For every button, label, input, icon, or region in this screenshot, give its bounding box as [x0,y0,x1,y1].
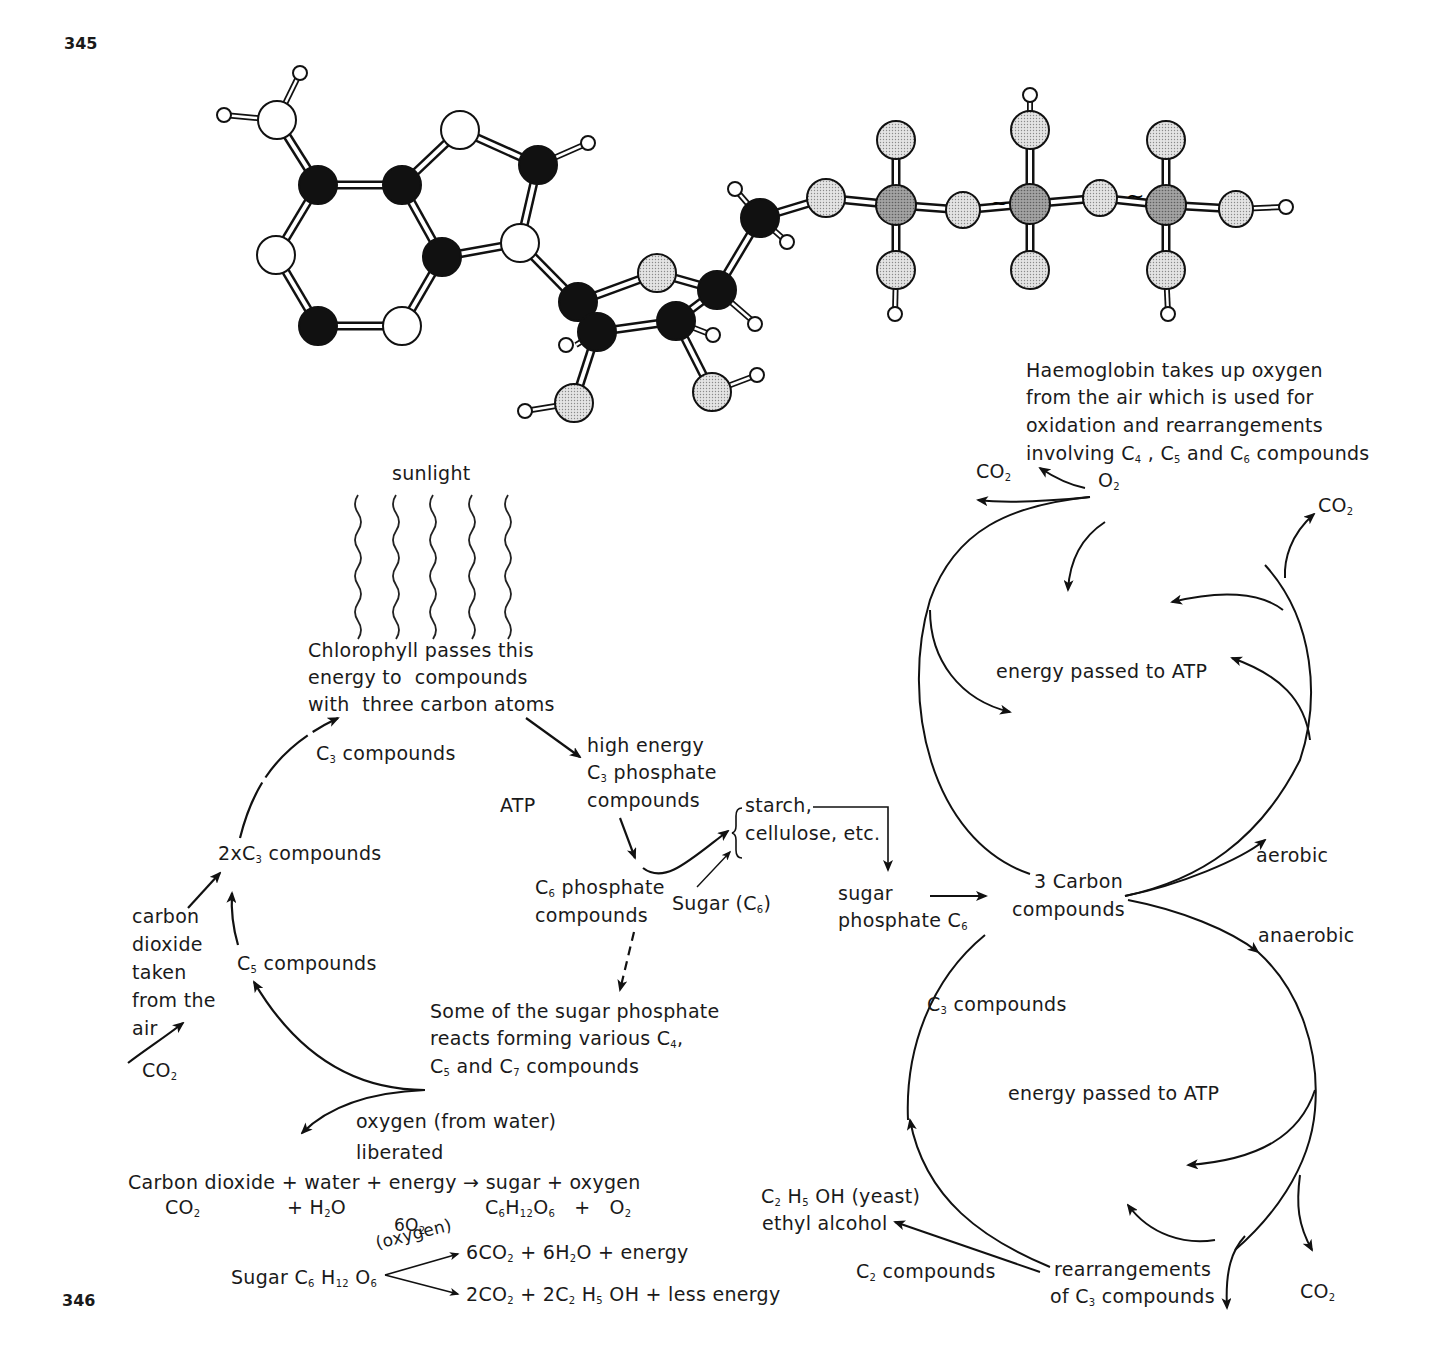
diagram-artwork: ~ ~ [0,0,1438,1363]
o2-input-label: O2 [1098,467,1120,500]
co2-output-bottom: CO2 [1300,1278,1336,1311]
formula-co2: CO2 [165,1194,201,1227]
co2-output-top-left: CO2 [976,458,1012,491]
energy-atp-aerobic-label: energy passed to ATP [996,658,1207,685]
respiration-sugar-formula: Sugar C6 H12 O6 [231,1264,377,1297]
anaerobic-label: anaerobic [1258,922,1355,949]
high-energy-bond-2: ~ [1126,183,1144,208]
c3-compounds-respiration-label: C3 compounds [927,991,1067,1024]
sugar-c6-label: Sugar (C6) [672,890,771,923]
c5-compounds-label: C5 compounds [237,950,377,983]
co2-input-label: CO2 [142,1057,178,1090]
aerobic-label: aerobic [1256,842,1328,869]
respiration-equation-arrows [385,1254,458,1294]
formula-products: C6H12O6 + O2 [485,1194,631,1227]
sunlight-waves [355,495,511,639]
c3-compounds-label: C3 compounds [316,740,456,773]
page-number-346: 346 [62,1291,95,1310]
energy-atp-anaerobic-label: energy passed to ATP [1008,1080,1219,1107]
high-energy-bond-1: ~ [990,190,1008,215]
chlorophyll-line-2: energy to compounds [308,664,528,691]
co2-output-top-right: CO2 [1318,492,1354,525]
chlorophyll-line-1: Chlorophyll passes this [308,637,534,664]
chlorophyll-line-3: with three carbon atoms [308,691,555,718]
formula-h2o: + H2O [287,1194,346,1227]
photosynthesis-word-equation: Carbon dioxide + water + energy → sugar … [128,1169,641,1196]
atp-label: ATP [500,792,536,819]
c2-compounds-label: C2 compounds [856,1258,996,1291]
sunlight-label: sunlight [392,460,471,487]
page-number-345: 345 [64,34,97,53]
two-c3-compounds-label: 2xC3 compounds [218,840,382,873]
anaerobic-products: 2CO2 + 2C2 H5 OH + less energy [466,1281,780,1314]
aerobic-products: 6CO2 + 6H2O + energy [466,1239,689,1272]
